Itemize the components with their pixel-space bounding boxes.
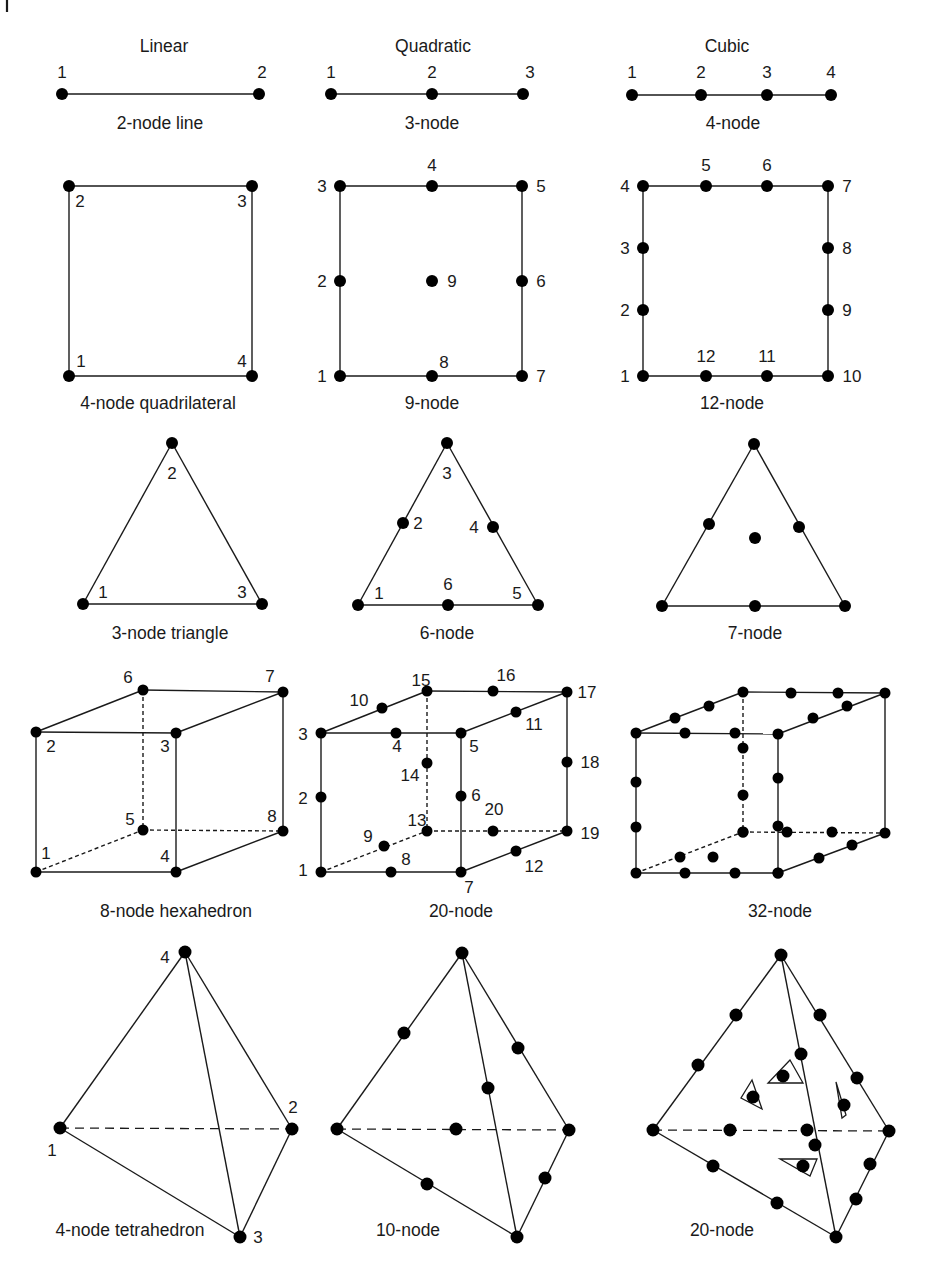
node-dot	[631, 777, 642, 788]
node-dot	[441, 437, 453, 449]
node-dot	[839, 600, 851, 612]
node-dot	[822, 304, 834, 316]
node-number-label: 5	[469, 737, 478, 756]
node-dot	[516, 275, 528, 287]
node-number-label: 2	[288, 1098, 297, 1117]
node-dot	[286, 1123, 299, 1136]
node-number-label: 7	[464, 878, 473, 897]
edge	[321, 691, 427, 733]
node-dot	[77, 598, 89, 610]
node-number-label: 8	[842, 239, 851, 258]
node-dot	[386, 867, 397, 878]
node-dot	[325, 88, 337, 100]
element-caption: 7-node	[728, 623, 783, 643]
node-number-label: 11	[758, 347, 776, 366]
node-dot	[456, 728, 467, 739]
hidden-edge	[653, 1130, 889, 1131]
node-dot	[822, 242, 834, 254]
element-3-node-triangle: 2133-node triangle	[77, 437, 268, 643]
node-dot	[675, 852, 686, 863]
node-number-label: 1	[298, 861, 307, 880]
node-dot	[703, 518, 715, 530]
node-dot	[487, 521, 499, 533]
node-dot	[773, 868, 784, 879]
node-number-label: 9	[842, 301, 851, 320]
edge	[778, 693, 885, 734]
edge	[743, 692, 885, 693]
node-number-label: 5	[536, 177, 545, 196]
edge	[781, 955, 889, 1131]
node-dot	[316, 867, 327, 878]
node-dot	[707, 1160, 720, 1173]
node-dot	[63, 370, 75, 382]
node-number-label: 2	[427, 63, 436, 82]
element-2-node-line: 122-node line	[56, 63, 267, 133]
node-dot	[656, 600, 668, 612]
node-number-label: 4	[469, 518, 478, 537]
node-number-label: 10	[350, 691, 369, 710]
node-number-label: 4	[826, 63, 835, 82]
node-number-label: 3	[762, 63, 771, 82]
node-dot	[352, 599, 364, 611]
node-dot	[539, 1172, 552, 1185]
node-number-label: 12	[697, 347, 716, 366]
node-dot	[704, 701, 715, 712]
node-dot	[421, 1178, 434, 1191]
element-32-node-hexahedron: 32-node	[631, 687, 891, 922]
node-dot	[695, 89, 707, 101]
node-number-label: 8	[267, 807, 276, 826]
node-dot	[562, 687, 573, 698]
node-number-label: 6	[471, 786, 480, 805]
node-number-label: 10	[843, 367, 862, 386]
node-dot	[63, 180, 75, 192]
node-dot	[738, 790, 749, 801]
edge	[36, 732, 176, 733]
edge	[60, 952, 185, 1128]
node-number-label: 7	[842, 177, 851, 196]
node-dot	[749, 600, 761, 612]
node-dot	[562, 826, 573, 837]
node-number-label: 4	[160, 948, 169, 967]
node-number-label: 7	[536, 367, 545, 386]
node-dot	[278, 826, 289, 837]
node-number-label: 2	[413, 514, 422, 533]
element-3-node-line: 1233-node	[325, 63, 535, 133]
node-dot	[700, 370, 712, 382]
node-dot	[488, 826, 499, 837]
node-dot	[246, 370, 258, 382]
node-dot	[830, 1231, 843, 1244]
node-dot	[761, 370, 773, 382]
hidden-edge	[143, 830, 283, 831]
node-dot	[426, 180, 438, 192]
node-number-label: 3	[253, 1228, 262, 1247]
node-number-label: 4	[427, 156, 436, 175]
node-dot	[833, 688, 844, 699]
node-dot	[808, 713, 819, 724]
node-dot	[166, 437, 178, 449]
node-dot	[782, 827, 793, 838]
node-dot	[626, 89, 638, 101]
element-caption: 12-node	[700, 393, 764, 413]
node-dot	[775, 949, 788, 962]
node-dot	[631, 868, 642, 879]
node-dot	[179, 946, 192, 959]
node-dot	[334, 370, 346, 382]
node-number-label: 1	[374, 584, 383, 603]
node-number-label: 2	[298, 789, 307, 808]
node-dot	[637, 242, 649, 254]
node-number-label: 1	[41, 844, 50, 863]
node-dot	[31, 727, 42, 738]
node-dot	[377, 703, 388, 714]
node-number-label: 4	[620, 177, 629, 196]
element-caption: 10-node	[376, 1220, 440, 1240]
element-caption: 8-node hexahedron	[100, 901, 252, 921]
node-dot	[822, 180, 834, 192]
edge	[781, 955, 836, 1237]
node-dot	[331, 1123, 344, 1136]
node-dot	[450, 1123, 463, 1136]
node-number-label: 2	[75, 192, 84, 211]
element-6-node-triangle: 3241656-node	[352, 437, 544, 643]
node-number-label: 18	[581, 753, 600, 772]
node-number-label: 2	[257, 63, 266, 82]
hidden-edge	[321, 831, 427, 872]
